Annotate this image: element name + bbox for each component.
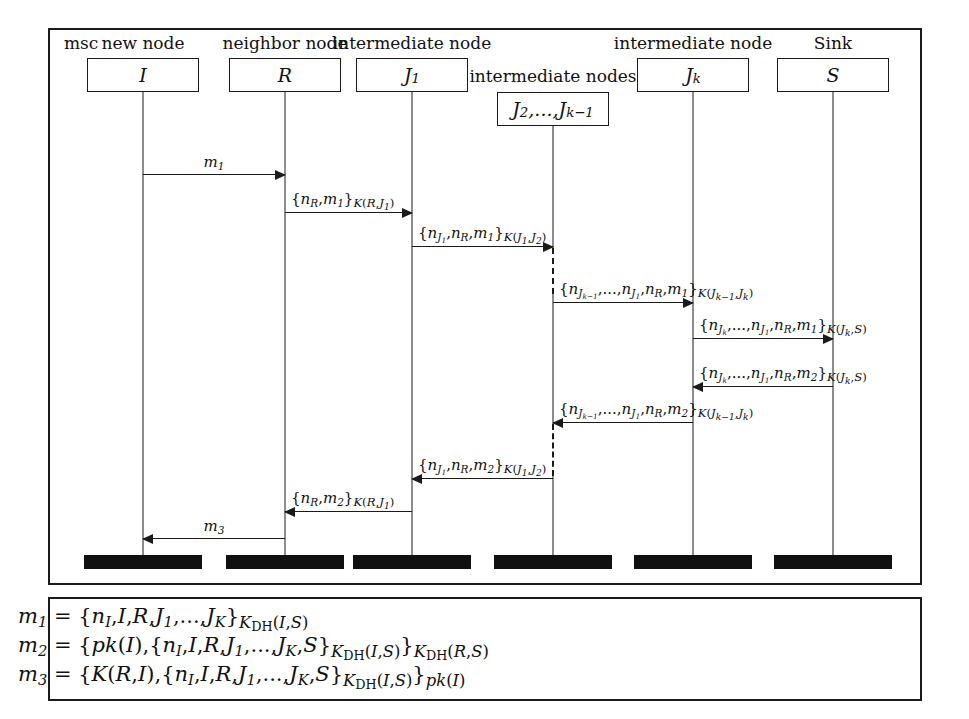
lifeline-R xyxy=(285,92,286,560)
instance-box-I: I xyxy=(87,58,199,92)
message-arrow-6: {nJk,...,nJ1,nR,m2}K(Jk,S) xyxy=(693,386,833,387)
message-label-8: {nJ1,nR,m2}K(J1,J2) xyxy=(418,457,546,476)
instance-box-J1: J1 xyxy=(356,58,468,92)
message-arrow-7: {nJk−1,...,nJ1,nR,m2}K(Jk−1,Jk) xyxy=(553,422,693,423)
arrowhead-right-icon xyxy=(275,170,286,180)
instance-box-Jmid: J2,...,Jk−1 xyxy=(497,92,609,126)
instance-box-Jk: Jk xyxy=(637,58,749,92)
message-label-4: {nJk−1,...,nJ1,nR,m1}K(Jk−1,Jk) xyxy=(559,281,753,300)
msc-diagram: msc new node neighbor node intermediate … xyxy=(0,0,969,719)
message-arrow-2: {nR,m1}K(R,J1) xyxy=(285,212,412,213)
lifeline-Jmid-seg2 xyxy=(553,294,554,424)
message-label-10: m3 xyxy=(204,518,225,536)
role-label-sink: Sink xyxy=(814,33,852,53)
termination-bar-J1 xyxy=(353,555,471,569)
arrowhead-right-icon xyxy=(402,208,413,218)
termination-bar-I xyxy=(84,555,202,569)
lifeline-Jmid-dashed2 xyxy=(552,424,554,476)
message-arrow-5: {nJk,...,nJ1,nR,m1}K(Jk,S) xyxy=(693,338,833,339)
instance-box-R: R xyxy=(229,58,341,92)
message-arrow-8: {nJ1,nR,m2}K(J1,J2) xyxy=(412,478,553,479)
message-label-5: {nJk,...,nJ1,nR,m1}K(Jk,S) xyxy=(699,317,867,336)
lifeline-J1 xyxy=(412,92,413,560)
message-arrow-10: m3 xyxy=(143,538,285,539)
termination-bar-R xyxy=(226,555,344,569)
message-label-2: {nR,m1}K(R,J1) xyxy=(291,191,394,210)
legend-line-m3: m3 = {K(R,I),{nI,I,R,J1,...,JK,S}KDH(I,S… xyxy=(18,663,465,688)
message-arrow-4: {nJk−1,...,nJ1,nR,m1}K(Jk−1,Jk) xyxy=(553,302,693,303)
termination-bar-Jk xyxy=(634,555,752,569)
msc-frame xyxy=(48,28,922,585)
role-label-new-node: new node xyxy=(101,33,184,53)
role-label-neighbor-node: neighbor node xyxy=(222,33,347,53)
msc-keyword: msc xyxy=(64,33,98,53)
lifeline-Jmid-seg3 xyxy=(553,476,554,560)
legend-line-m1: m1 = {nI,I,R,J1,...,JK}KDH(I,S) xyxy=(18,605,308,630)
role-label-intermediate-node-1: intermediate node xyxy=(333,33,491,53)
termination-bar-Jmid xyxy=(494,555,612,569)
arrowhead-left-icon xyxy=(142,534,153,544)
message-arrow-9: {nR,m2}K(R,J1) xyxy=(285,511,412,512)
lifeline-Jk xyxy=(693,92,694,560)
message-arrow-1: m1 xyxy=(143,174,285,175)
lifeline-Jmid-seg1 xyxy=(553,126,554,248)
message-label-7: {nJk−1,...,nJ1,nR,m2}K(Jk−1,Jk) xyxy=(559,401,753,420)
legend-line-m2: m2 = {pk(I),{nI,I,R,J1,...,JK,S}KDH(I,S)… xyxy=(18,634,489,659)
role-label-intermediate-nodes: intermediate nodes xyxy=(469,66,636,86)
lifeline-Jmid-dashed1 xyxy=(552,248,554,294)
message-label-1: m1 xyxy=(204,154,225,172)
lifeline-I xyxy=(143,92,144,560)
message-label-3: {nJ1,nR,m1}K(J1,J2) xyxy=(418,225,546,244)
message-label-9: {nR,m2}K(R,J1) xyxy=(291,490,394,509)
instance-box-S: S xyxy=(777,58,889,92)
termination-bar-S xyxy=(774,555,892,569)
message-label-6: {nJk,...,nJ1,nR,m2}K(Jk,S) xyxy=(699,365,867,384)
role-label-intermediate-node-k: intermediate node xyxy=(614,33,772,53)
message-arrow-3: {nJ1,nR,m1}K(J1,J2) xyxy=(412,246,553,247)
